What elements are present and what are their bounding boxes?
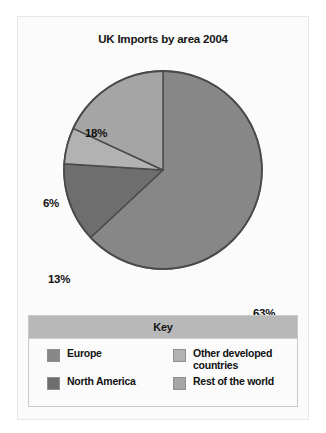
chart-title: UK Imports by area 2004 [18,33,308,45]
legend-swatch-icon-other-developed [173,349,186,362]
legend-label-north-america: North America [67,376,136,388]
legend-label-europe: Europe [67,348,102,360]
pie-label-rest-of-world: 18% [85,127,107,139]
legend-body: Europe Other developedcountries North Am… [29,339,297,402]
pie-chart: 18% 6% 13% 63% [18,61,310,311]
legend-swatch-icon-north-america [47,377,60,390]
legend-swatch-icon-europe [47,349,60,362]
legend-header: Key [29,316,297,339]
legend-title: Key [153,321,173,333]
legend: Key Europe Other developedcountries Nort… [28,315,298,407]
legend-swatch-icon-rest-of-world [173,377,186,390]
legend-label-other-developed: Other developedcountries [193,348,272,371]
legend-item-europe[interactable]: Europe [29,348,161,374]
legend-item-other-developed[interactable]: Other developedcountries [161,348,297,374]
pie-chart-svg [62,69,264,271]
pie-label-other-developed: 6% [43,197,59,209]
legend-label-rest-of-world: Rest of the world [193,376,274,388]
legend-item-rest-of-world[interactable]: Rest of the world [161,376,297,402]
pie-label-north-america: 13% [48,273,70,285]
legend-item-north-america[interactable]: North America [29,376,161,402]
